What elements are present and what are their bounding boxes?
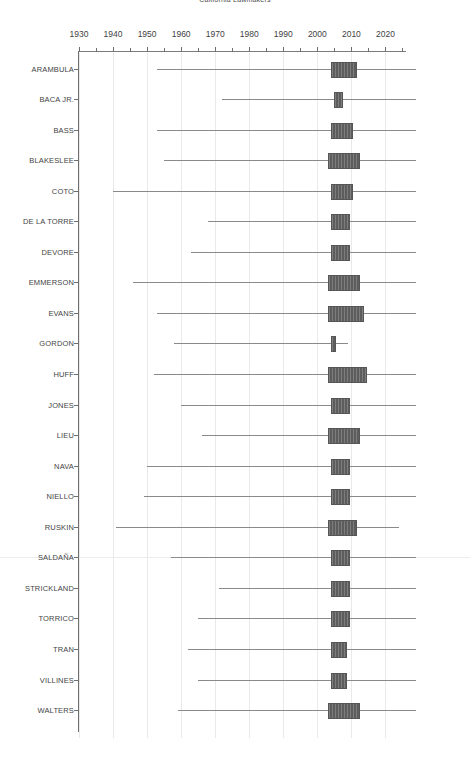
- y-tick: [74, 191, 78, 192]
- y-tick: [74, 99, 78, 100]
- category-label: LIEU: [0, 431, 74, 440]
- y-tick: [74, 69, 78, 70]
- x-tick: [300, 48, 301, 52]
- x-tick: [215, 47, 216, 52]
- category-label: EMMERSON: [0, 278, 74, 287]
- y-tick: [74, 496, 78, 497]
- category-label: BACA JR.: [0, 95, 74, 104]
- category-label: BASS: [0, 125, 74, 134]
- x-tick: [164, 48, 165, 52]
- category-label: RUSKIN: [0, 522, 74, 531]
- category-label: TRAN: [0, 644, 74, 653]
- box: [328, 153, 361, 169]
- whisker-line: [198, 680, 416, 681]
- category-label: ARAMBULA: [0, 64, 74, 73]
- category-label: DE LA TORRE: [0, 217, 74, 226]
- x-tick: [283, 47, 284, 52]
- y-tick: [74, 710, 78, 711]
- category-label: DEVORE: [0, 247, 74, 256]
- category-label: TORRICO: [0, 614, 74, 623]
- box: [331, 245, 350, 261]
- whisker-line: [133, 282, 416, 283]
- whisker-line: [219, 588, 416, 589]
- y-tick: [74, 588, 78, 589]
- whisker-line: [154, 374, 416, 375]
- x-tick: [130, 48, 131, 52]
- box-plot-chart: California Lawmakers 1930194019501960197…: [0, 0, 470, 771]
- x-gridline: [147, 53, 148, 739]
- x-tick: [368, 48, 369, 52]
- box: [328, 367, 367, 383]
- x-tick: [79, 47, 80, 52]
- category-label: JONES: [0, 400, 74, 409]
- box: [331, 581, 350, 597]
- x-tick-label: 1970: [206, 29, 225, 39]
- x-tick: [266, 48, 267, 52]
- x-gridline: [317, 53, 318, 739]
- box-hatch: [332, 63, 356, 77]
- x-tick: [334, 48, 335, 52]
- whisker-line: [222, 99, 416, 100]
- box-hatch: [332, 215, 349, 229]
- x-gridline: [215, 53, 216, 739]
- category-label: HUFF: [0, 370, 74, 379]
- x-tick: [317, 47, 318, 52]
- whisker-line: [178, 710, 416, 711]
- x-tick: [113, 47, 114, 52]
- box-hatch: [329, 154, 360, 168]
- y-tick: [74, 252, 78, 253]
- x-tick-label: 1930: [70, 29, 89, 39]
- box-hatch: [329, 429, 360, 443]
- category-label: WALTERS: [0, 706, 74, 715]
- y-tick: [74, 680, 78, 681]
- box: [331, 611, 350, 627]
- x-tick-label: 2000: [308, 29, 327, 39]
- y-tick: [74, 405, 78, 406]
- whisker-line: [171, 557, 416, 558]
- x-tick-label: 2010: [342, 29, 361, 39]
- whisker-line: [174, 343, 348, 344]
- whisker-line: [191, 252, 416, 253]
- y-tick: [74, 557, 78, 558]
- y-tick: [74, 527, 78, 528]
- category-label: NIELLO: [0, 492, 74, 501]
- x-axis-line: [78, 51, 406, 52]
- category-label: COTO: [0, 186, 74, 195]
- category-label: EVANS: [0, 308, 74, 317]
- whisker-line: [113, 191, 416, 192]
- x-tick: [249, 47, 250, 52]
- category-label: NAVA: [0, 461, 74, 470]
- box: [328, 520, 357, 536]
- x-tick: [385, 47, 386, 52]
- whisker-line: [157, 69, 416, 70]
- category-label: STRICKLAND: [0, 583, 74, 592]
- whisker-line: [144, 496, 416, 497]
- y-axis-line: [78, 51, 79, 733]
- whisker-line: [198, 618, 416, 619]
- x-tick-label: 1980: [240, 29, 259, 39]
- box: [331, 184, 353, 200]
- y-tick: [74, 313, 78, 314]
- y-tick: [74, 618, 78, 619]
- y-tick: [74, 282, 78, 283]
- x-gridline: [181, 53, 182, 739]
- x-gridline: [79, 53, 80, 739]
- plot-area: 1930194019501960197019801990200020102020…: [0, 0, 470, 771]
- category-label: BLAKESLEE: [0, 156, 74, 165]
- x-tick-label: 2020: [376, 29, 395, 39]
- x-tick: [147, 47, 148, 52]
- whisker-line: [157, 130, 416, 131]
- y-tick: [74, 343, 78, 344]
- box-hatch: [332, 582, 349, 596]
- box: [331, 550, 350, 566]
- box: [331, 398, 350, 414]
- whisker-line: [147, 466, 416, 467]
- box-hatch: [329, 276, 360, 290]
- box: [331, 214, 350, 230]
- y-tick: [74, 160, 78, 161]
- y-tick: [74, 649, 78, 650]
- box-hatch: [332, 246, 349, 260]
- x-tick-label: 1940: [104, 29, 123, 39]
- x-tick: [181, 47, 182, 52]
- x-gridline: [113, 53, 114, 739]
